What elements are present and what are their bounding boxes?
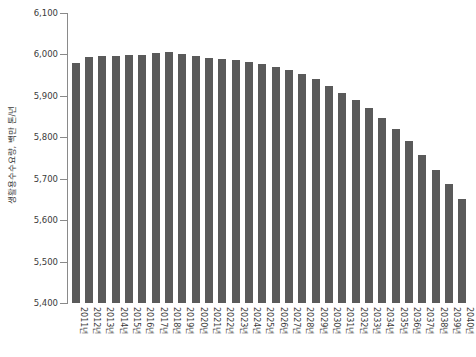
bar[interactable] (245, 62, 253, 303)
bar-slot (242, 13, 255, 303)
bar[interactable] (325, 86, 333, 304)
bar-slot (349, 13, 362, 303)
x-label-slot: 2023년 (229, 305, 242, 357)
bar[interactable] (112, 56, 120, 303)
bar[interactable] (392, 129, 400, 303)
y-tick-mark (60, 262, 67, 263)
y-tick-mark (60, 179, 67, 180)
bar-slot (109, 13, 122, 303)
y-tick-mark (60, 137, 67, 138)
x-label-slot: 2032년 (349, 305, 362, 357)
bar-slot (176, 13, 189, 303)
bar-slot (362, 13, 375, 303)
x-label-slot: 2033년 (362, 305, 375, 357)
bar[interactable] (285, 70, 293, 303)
bar[interactable] (458, 199, 466, 303)
y-tick-label: 5,800 (20, 132, 58, 142)
x-label-slot: 2038년 (429, 305, 442, 357)
x-label-slot: 2034년 (376, 305, 389, 357)
x-label-slot: 2027년 (282, 305, 295, 357)
x-label-slot: 2012년 (82, 305, 95, 357)
bar[interactable] (312, 79, 320, 303)
y-tick-label: 5,400 (20, 298, 58, 308)
bars-layer (68, 13, 470, 303)
bar[interactable] (365, 108, 373, 303)
bar-slot (296, 13, 309, 303)
x-label-slot: 2025년 (256, 305, 269, 357)
y-tick-mark (60, 54, 67, 55)
x-label-slot: 2035년 (389, 305, 402, 357)
y-tick-mark (60, 13, 67, 14)
bar[interactable] (338, 93, 346, 303)
y-axis-title: 생활용수수요량, 백만 톤/년 (0, 0, 22, 310)
x-tick-label: 2040년 (465, 307, 476, 334)
bar[interactable] (98, 56, 106, 303)
bar[interactable] (258, 64, 266, 303)
bar-slot (416, 13, 429, 303)
bar[interactable] (205, 58, 213, 303)
bar[interactable] (378, 118, 386, 303)
bar[interactable] (138, 55, 146, 303)
bar-slot (189, 13, 202, 303)
y-tick-label: 5,900 (20, 91, 58, 101)
bar[interactable] (405, 141, 413, 303)
x-label-slot: 2011년 (69, 305, 82, 357)
x-label-slot: 2013년 (96, 305, 109, 357)
bar-slot (402, 13, 415, 303)
x-label-slot: 2022년 (216, 305, 229, 357)
x-label-slot: 2015년 (122, 305, 135, 357)
plot-area (68, 13, 470, 303)
bar-slot (269, 13, 282, 303)
bar[interactable] (192, 56, 200, 303)
y-tick-label: 5,500 (20, 257, 58, 267)
y-tick-label: 6,000 (20, 49, 58, 59)
bar-slot (202, 13, 215, 303)
bar-slot (389, 13, 402, 303)
bar[interactable] (232, 60, 240, 303)
x-label-slot: 2036년 (402, 305, 415, 357)
bar-slot (376, 13, 389, 303)
bar[interactable] (152, 53, 160, 303)
x-label-slot: 2014년 (109, 305, 122, 357)
bar-slot (456, 13, 469, 303)
bar-slot (69, 13, 82, 303)
x-label-slot: 2024년 (242, 305, 255, 357)
bar[interactable] (218, 59, 226, 303)
bar[interactable] (298, 74, 306, 303)
bar-slot (136, 13, 149, 303)
bar[interactable] (165, 52, 173, 303)
bar[interactable] (272, 67, 280, 303)
x-label-slot: 2020년 (189, 305, 202, 357)
bar-slot (149, 13, 162, 303)
bar-slot (256, 13, 269, 303)
bar-slot (96, 13, 109, 303)
bar-slot (442, 13, 455, 303)
x-label-slot: 2018년 (162, 305, 175, 357)
x-label-slot: 2021년 (202, 305, 215, 357)
bar[interactable] (178, 54, 186, 303)
bar-slot (309, 13, 322, 303)
bar[interactable] (352, 100, 360, 303)
y-tick-label: 6,100 (20, 8, 58, 18)
bar[interactable] (125, 55, 133, 303)
x-label-slot: 2016년 (136, 305, 149, 357)
x-label-slot: 2039년 (442, 305, 455, 357)
bar[interactable] (85, 57, 93, 304)
bar-slot (122, 13, 135, 303)
y-tick-mark (60, 220, 67, 221)
x-label-slot: 2029년 (309, 305, 322, 357)
x-label-slot: 2026년 (269, 305, 282, 357)
x-label-slot: 2017년 (149, 305, 162, 357)
y-tick-mark (60, 303, 67, 304)
bar[interactable] (418, 155, 426, 303)
x-label-slot: 2040년 (456, 305, 469, 357)
bar-slot (162, 13, 175, 303)
x-label-slot: 2028년 (296, 305, 309, 357)
bar-slot (322, 13, 335, 303)
y-axis-tick-labels: 5,4005,5005,6005,7005,8005,9006,0006,100 (20, 0, 58, 357)
bar[interactable] (432, 170, 440, 303)
bar[interactable] (445, 184, 453, 303)
y-tick-mark (60, 96, 67, 97)
bar[interactable] (72, 63, 80, 303)
